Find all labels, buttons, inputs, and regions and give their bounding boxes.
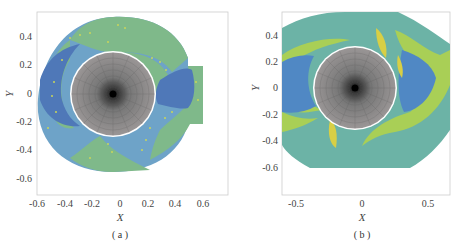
xtick: 0.4: [169, 198, 182, 209]
xtick: -0.5: [288, 198, 304, 209]
y-axis-label: Y: [249, 83, 261, 91]
chart-b-svg: 0.4 0.2 0 -0.2 -0.4 -0.6 Y -0.5 0 0.5 X …: [228, 0, 457, 244]
xtick: 0.6: [197, 198, 210, 209]
ytick: -0.2: [262, 109, 278, 120]
y-axis-b: 0.4 0.2 0 -0.2 -0.4 -0.6 Y: [249, 30, 278, 173]
y-axis-label: Y: [3, 89, 15, 97]
x-axis-a: -0.6 -0.4 -0.2 0 0.2 0.4 0.6 X: [29, 198, 209, 223]
x-axis-label: X: [358, 211, 367, 223]
ytick: 0: [273, 82, 278, 93]
ytick: 0.2: [266, 56, 279, 67]
xtick: -0.6: [29, 198, 45, 209]
central-body-a: [70, 51, 156, 137]
xtick: -0.2: [84, 198, 100, 209]
ytick: 0.4: [266, 30, 279, 41]
xtick: 0: [360, 198, 365, 209]
caption-a: ( a ): [112, 229, 128, 241]
ytick: 0.4: [20, 31, 33, 42]
central-body-b: [313, 46, 397, 130]
ytick: 0.2: [20, 59, 33, 70]
caption-b: ( b ): [354, 229, 371, 241]
ytick: -0.4: [262, 135, 278, 146]
x-axis-label: X: [116, 211, 125, 223]
ytick: -0.4: [16, 144, 32, 155]
ytick: 0: [27, 88, 32, 99]
xtick: 0: [118, 198, 123, 209]
chart-a-svg: 0.4 0.2 0 -0.2 -0.4 -0.6 Y -0.6 -0.4 -0.…: [0, 0, 230, 244]
y-axis-a: 0.4 0.2 0 -0.2 -0.4 -0.6 Y: [3, 31, 32, 184]
xtick: 0.2: [142, 198, 155, 209]
panel-b: 0.4 0.2 0 -0.2 -0.4 -0.6 Y -0.5 0 0.5 X …: [228, 0, 457, 244]
ytick: -0.2: [16, 116, 32, 127]
x-axis-b: -0.5 0 0.5 X: [288, 198, 434, 223]
panel-a: 0.4 0.2 0 -0.2 -0.4 -0.6 Y -0.6 -0.4 -0.…: [0, 0, 230, 244]
ytick: -0.6: [16, 173, 32, 184]
xtick: -0.4: [57, 198, 73, 209]
ytick: -0.6: [262, 162, 278, 173]
xtick: 0.5: [422, 198, 435, 209]
